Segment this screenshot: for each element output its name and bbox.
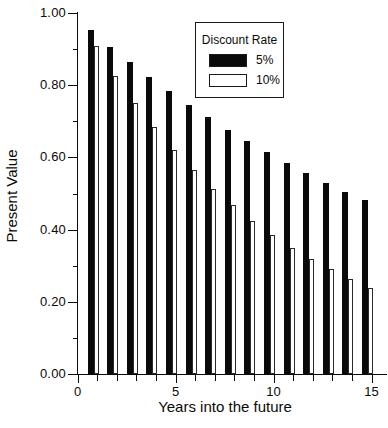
x-tick-label: 10 xyxy=(259,385,289,399)
bar-10pct-year-2 xyxy=(113,76,118,374)
y-major-tick xyxy=(68,302,78,303)
y-axis-title: Present Value xyxy=(3,149,20,242)
x-minor-tick xyxy=(293,375,294,381)
bar-10pct-year-13 xyxy=(329,269,334,374)
y-minor-tick xyxy=(73,121,78,122)
y-minor-tick xyxy=(73,338,78,339)
y-tick-label: 0.40 xyxy=(24,223,66,237)
x-minor-tick xyxy=(195,375,196,381)
legend-label-10pct: 10% xyxy=(256,73,280,87)
y-tick-label: 0.80 xyxy=(24,78,66,92)
bar-10pct-year-7 xyxy=(211,189,216,374)
y-tick-label: 0.00 xyxy=(24,367,66,381)
y-major-tick xyxy=(68,13,78,14)
bar-10pct-year-6 xyxy=(192,170,197,374)
x-axis-line xyxy=(77,374,387,375)
x-minor-tick xyxy=(352,375,353,381)
y-minor-tick xyxy=(73,266,78,267)
x-major-tick xyxy=(274,375,275,383)
x-minor-tick xyxy=(136,375,137,381)
legend-label-5pct: 5% xyxy=(256,53,273,67)
bar-10pct-year-15 xyxy=(368,288,373,374)
x-major-tick xyxy=(372,375,373,383)
y-minor-tick xyxy=(73,194,78,195)
y-tick-label: 1.00 xyxy=(24,6,66,20)
x-minor-tick xyxy=(97,375,98,381)
y-tick-label: 0.20 xyxy=(24,295,66,309)
x-minor-tick xyxy=(117,375,118,381)
y-tick-label: 0.60 xyxy=(24,150,66,164)
legend-entry-10pct: 10% xyxy=(209,73,283,87)
x-major-tick xyxy=(78,375,79,383)
legend-entry-5pct: 5% xyxy=(209,53,283,67)
x-tick-label: 15 xyxy=(357,385,387,399)
x-minor-tick xyxy=(234,375,235,381)
x-minor-tick xyxy=(313,375,314,381)
x-minor-tick xyxy=(156,375,157,381)
x-axis-title: Years into the future xyxy=(158,398,292,415)
legend: Discount Rate 5% 10% xyxy=(195,22,284,98)
y-major-tick xyxy=(68,157,78,158)
bar-10pct-year-12 xyxy=(309,259,314,374)
x-tick-label: 5 xyxy=(161,385,191,399)
x-major-tick xyxy=(176,375,177,383)
y-minor-tick xyxy=(73,49,78,50)
y-major-tick xyxy=(68,230,78,231)
bar-10pct-year-5 xyxy=(172,150,177,374)
legend-swatch-10pct xyxy=(209,74,247,87)
x-minor-tick xyxy=(215,375,216,381)
bar-10pct-year-1 xyxy=(94,46,99,374)
bar-10pct-year-11 xyxy=(290,248,295,374)
bar-10pct-year-3 xyxy=(133,103,138,374)
bar-10pct-year-8 xyxy=(231,205,236,374)
bar-10pct-year-14 xyxy=(348,279,353,374)
y-major-tick xyxy=(68,85,78,86)
legend-title: Discount Rate xyxy=(196,33,283,47)
bar-10pct-year-4 xyxy=(152,127,157,374)
legend-swatch-5pct xyxy=(209,54,247,67)
x-minor-tick xyxy=(332,375,333,381)
x-minor-tick xyxy=(254,375,255,381)
y-major-tick xyxy=(68,374,78,375)
x-tick-label: 0 xyxy=(63,385,93,399)
present-value-bar-chart: Present Value Years into the future 0.00… xyxy=(0,0,388,428)
bar-10pct-year-9 xyxy=(250,221,255,374)
bar-10pct-year-10 xyxy=(270,235,275,374)
